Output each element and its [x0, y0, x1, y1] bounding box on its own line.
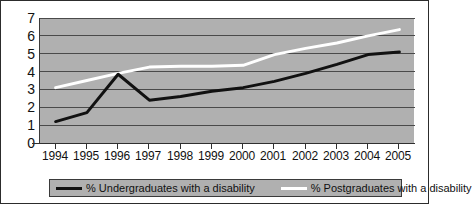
x-axis-tick-label: 2002 — [288, 150, 322, 162]
x-axis-tick-label: 1996 — [100, 150, 134, 162]
legend-item-postgraduates: % Postgraduates with a disability — [281, 180, 472, 196]
chart-legend: % Undergraduates with a disability % Pos… — [49, 179, 402, 197]
x-axis-tick-label: 2003 — [319, 150, 353, 162]
x-axis-line — [32, 143, 415, 144]
x-axis-tick-label: 1998 — [163, 150, 197, 162]
legend-label-undergraduates: % Undergraduates with a disability — [86, 183, 255, 194]
y-axis-tick-label: 5 — [17, 47, 35, 61]
chart-frame: 01234567 1994199519961997199819992000200… — [0, 0, 429, 204]
legend-swatch-postgraduates — [281, 187, 307, 190]
plot-area — [39, 18, 414, 143]
y-axis-tick-label: 4 — [17, 65, 35, 79]
x-axis-tick-label: 1997 — [131, 150, 165, 162]
y-axis-tick-label: 7 — [17, 11, 35, 25]
y-axis-tick-label: 1 — [17, 118, 35, 132]
x-axis-tick-label: 1994 — [38, 150, 72, 162]
x-axis-tick-label: 1995 — [69, 150, 103, 162]
x-axis-tick-label: 2004 — [350, 150, 384, 162]
x-axis-tick-label: 2000 — [225, 150, 259, 162]
y-axis-tick-label: 6 — [17, 29, 35, 43]
legend-swatch-undergraduates — [56, 187, 82, 190]
legend-label-postgraduates: % Postgraduates with a disability — [311, 183, 472, 194]
line-postgraduates — [56, 30, 400, 88]
line-undergraduates — [56, 52, 400, 122]
x-axis-tick-label: 1999 — [194, 150, 228, 162]
series-lines — [40, 18, 415, 143]
x-axis-tick-label: 2001 — [256, 150, 290, 162]
y-axis-tick-label: 2 — [17, 100, 35, 114]
x-axis-tick-label: 2005 — [381, 150, 415, 162]
y-axis-tick-label: 3 — [17, 82, 35, 96]
legend-item-undergraduates: % Undergraduates with a disability — [56, 180, 255, 196]
